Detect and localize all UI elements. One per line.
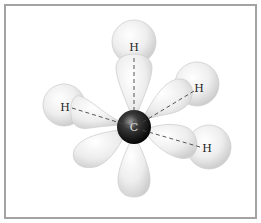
methane-orbital-diagram: H H H H C	[0, 0, 261, 223]
bond-left	[43, 84, 126, 129]
label-h-top: H	[129, 41, 139, 54]
label-h-lower-right: H	[202, 142, 212, 155]
label-h-left: H	[60, 101, 70, 114]
label-h-upper-right: H	[194, 82, 204, 95]
bond-upper-right	[142, 62, 219, 120]
bond-lower-right	[144, 124, 231, 169]
label-carbon: C	[130, 121, 138, 134]
